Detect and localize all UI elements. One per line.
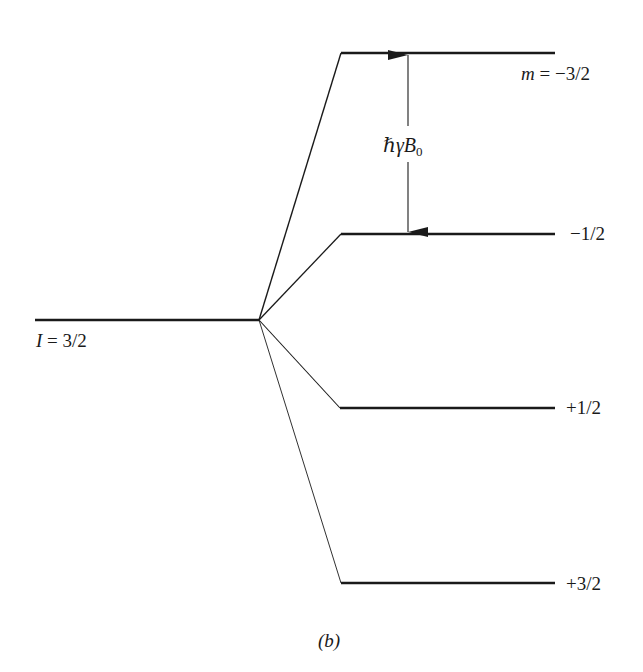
level-value: −1/2	[570, 223, 605, 244]
figure-caption: (b)	[318, 631, 340, 650]
field-symbol: B	[404, 134, 416, 156]
hbar-symbol: ℏ	[383, 134, 396, 156]
fan-line-m-minus-1-2	[259, 234, 341, 320]
m-symbol: m	[521, 63, 535, 84]
level-value: +1/2	[566, 397, 601, 418]
splitting-energy-label: ℏγB0	[383, 135, 423, 155]
equals-sign: =	[42, 330, 62, 351]
level-value: +3/2	[566, 573, 601, 594]
fan-line-m-plus-1-2	[259, 320, 340, 408]
level-label-m-plus-1-2: +1/2	[566, 398, 601, 417]
spin-value: 3/2	[63, 330, 87, 351]
level-label-m-minus-1-2: −1/2	[570, 224, 605, 243]
level-label-m-minus-3-2: m = −3/2	[521, 64, 590, 83]
fan-line-m-minus-3-2	[259, 53, 341, 320]
level-label-m-plus-3-2: +3/2	[566, 574, 601, 593]
gamma-symbol: γ	[396, 134, 404, 156]
equals-sign: =	[535, 63, 555, 84]
fan-line-m-plus-3-2	[259, 320, 341, 583]
ground-state-label: I = 3/2	[36, 331, 87, 350]
field-subscript: 0	[416, 144, 423, 159]
caption-text: (b)	[318, 630, 340, 651]
zeeman-splitting-diagram	[0, 0, 643, 672]
level-value: −3/2	[555, 63, 590, 84]
